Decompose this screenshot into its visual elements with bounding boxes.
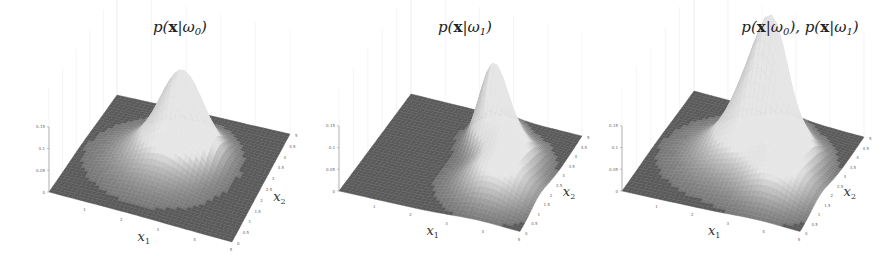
x2-tick-label: 2.5 — [556, 183, 563, 188]
x2-tick-label: 4.5 — [863, 146, 870, 151]
x1-tick-label: 4 — [762, 229, 765, 234]
title-text: |ω — [766, 18, 783, 36]
figure: 00.050.10.151234500.511.522.533.544.55x1… — [0, 0, 895, 256]
x1-tick-label: 5 — [518, 237, 521, 242]
x2-tick-label: 1 — [818, 212, 821, 217]
x2-tick-label: 5 — [869, 136, 872, 141]
title-text: ), p( — [788, 18, 821, 36]
title-text: p( — [153, 18, 170, 36]
x1-axis-label-subscript: 1 — [145, 237, 150, 246]
title-text: ) — [852, 18, 859, 36]
x1-axis-label: x1 — [708, 223, 720, 240]
z-tick-label: 0.1 — [39, 146, 46, 151]
x2-tick-label: 4 — [575, 154, 578, 159]
x1-tick-label: 1 — [373, 204, 376, 209]
subplot-title: p(x|ω0) — [153, 18, 207, 37]
x1-tick-label: 1 — [83, 207, 86, 212]
x2-axis-label: x2 — [844, 184, 856, 201]
z-tick-label: 0.05 — [326, 167, 335, 172]
z-tick-label: 0.05 — [36, 168, 45, 173]
x2-axis-label: x2 — [273, 189, 285, 206]
x1-axis-label-subscript: 1 — [715, 231, 720, 240]
x2-axis-label-subscript: 2 — [281, 197, 286, 206]
x2-tick-label: 0 — [805, 231, 808, 236]
x1-tick-label: 2 — [691, 212, 694, 217]
x2-axis-label-subscript: 2 — [851, 192, 856, 201]
title-text: |ω — [462, 18, 479, 36]
z-tick-label: 0 — [615, 189, 618, 194]
x2-tick-label: 2 — [550, 193, 553, 198]
title-text: ) — [200, 18, 207, 36]
subplot-title: p(x|ω0), p(x|ω1) — [741, 18, 859, 37]
subplot-3: 00.050.10.151234500.511.522.533.544.55x1… — [609, 0, 872, 242]
x2-tick-label: 1 — [249, 219, 252, 224]
x2-tick-label: 0.5 — [243, 230, 250, 235]
x2-tick-label: 5 — [295, 133, 298, 138]
x2-tick-label: 4.5 — [289, 144, 296, 149]
x2-tick-label: 2.5 — [266, 187, 273, 192]
x2-tick-label: 1.5 — [254, 209, 261, 214]
x1-axis-label-subscript: 1 — [434, 231, 439, 240]
x2-tick-label: 3 — [562, 173, 565, 178]
x1-tick-label: 3 — [445, 221, 448, 226]
title-text: p( — [741, 18, 758, 36]
x1-axis-label: x1 — [138, 229, 150, 246]
z-tick-label: 0.1 — [329, 145, 336, 150]
subplot-title: p(x|ω1) — [438, 18, 492, 37]
x1-tick-label: 5 — [230, 247, 233, 252]
x2-tick-label: 4 — [283, 155, 286, 160]
x2-tick-label: 4.5 — [581, 145, 588, 150]
title-text: |ω — [177, 18, 194, 36]
x1-tick-label: 3 — [157, 227, 160, 232]
x2-tick-label: 3 — [272, 176, 275, 181]
x1-tick-label: 5 — [798, 237, 801, 242]
x2-tick-label: 0 — [237, 241, 240, 246]
x1-axis-label: x1 — [427, 223, 439, 240]
x2-tick-label: 0.5 — [531, 221, 538, 226]
surface — [622, 15, 864, 232]
z-tick-label: 0.15 — [326, 123, 335, 128]
x2-axis-label: x2 — [563, 184, 575, 201]
x2-tick-label: 4 — [856, 155, 859, 160]
x2-axis-label-subscript: 2 — [570, 192, 575, 201]
z-tick-label: 0.1 — [612, 145, 619, 150]
x2-tick-label: 3.5 — [568, 164, 575, 169]
z-tick-label: 0.15 — [36, 124, 45, 129]
x1-tick-label: 4 — [482, 229, 485, 234]
x2-tick-label: 3 — [843, 174, 846, 179]
x2-tick-label: 0 — [525, 231, 528, 236]
surface — [49, 70, 290, 242]
x1-tick-label: 4 — [193, 237, 196, 242]
subplot-2: 00.050.10.151234500.511.522.533.544.55x1… — [326, 0, 590, 242]
x2-tick-label: 0.5 — [811, 222, 818, 227]
x2-tick-label: 1.5 — [544, 202, 551, 207]
x1-tick-label: 2 — [120, 217, 123, 222]
title-text: ) — [485, 18, 492, 36]
x2-tick-label: 3.5 — [278, 165, 285, 170]
x2-tick-label: 3.5 — [850, 165, 857, 170]
z-tick-label: 0 — [332, 189, 335, 194]
x1-tick-label: 1 — [655, 204, 658, 209]
x1-tick-label: 3 — [727, 221, 730, 226]
title-text: p( — [438, 18, 455, 36]
z-tick-label: 0.05 — [609, 167, 618, 172]
x2-tick-label: 1 — [537, 212, 540, 217]
subplot-1: 00.050.10.151234500.511.522.533.544.55x1… — [36, 0, 298, 252]
x2-tick-label: 5 — [587, 135, 590, 140]
x2-tick-label: 2 — [831, 193, 834, 198]
x1-tick-label: 2 — [409, 212, 412, 217]
x2-tick-label: 2 — [260, 198, 263, 203]
z-tick-label: 0.15 — [609, 123, 618, 128]
x2-tick-label: 1.5 — [824, 203, 831, 208]
title-text: |ω — [829, 18, 846, 36]
z-tick-label: 0 — [42, 190, 45, 195]
